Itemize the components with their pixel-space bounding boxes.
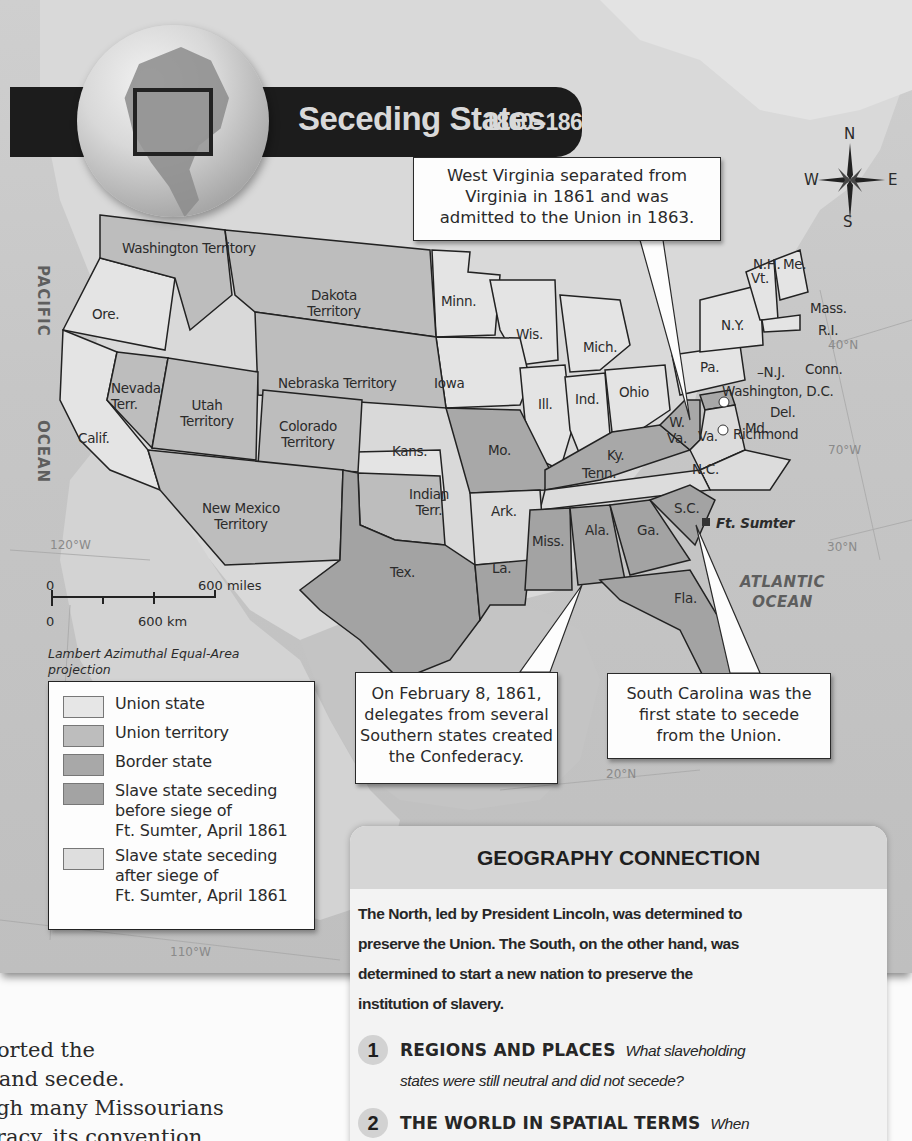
label-virginia: Va. (698, 428, 718, 444)
question-number-badge: 2 (358, 1108, 388, 1138)
label-new-mexico-territory: New Mexico Territory (196, 500, 286, 532)
compass-n: N (844, 125, 855, 143)
label-california: Calif. (78, 430, 109, 446)
label-pennsylvania: Pa. (700, 359, 719, 375)
question-heading: REGIONS AND PLACES (400, 1040, 616, 1060)
legend-item-seceding-before: Slave state seceding before siege of Ft.… (63, 781, 314, 841)
label-oregon: Ore. (92, 306, 119, 322)
callout-west-virginia: West Virginia separated from Virginia in… (413, 157, 721, 241)
question-2: 2 THE WORLD IN SPATIAL TERMS When (358, 1108, 879, 1139)
label-new-jersey: –N.J. (757, 364, 785, 380)
callout-south-carolina: South Carolina was the first state to se… (607, 673, 831, 759)
label-indian-territory: Indian Terr. (404, 486, 454, 518)
label-texas: Tex. (390, 564, 415, 580)
label-north-carolina: N.C. (692, 461, 719, 477)
label-mississippi: Miss. (532, 533, 564, 549)
label-maine: Me. (783, 256, 806, 272)
legend-item-border-state: Border state (63, 752, 314, 776)
ocean-label-atlantic: ATLANTIC OCEAN (740, 572, 825, 612)
callout-confederacy: On February 8, 1861, delegates from seve… (355, 672, 558, 784)
legend-swatch (63, 696, 104, 718)
legend-swatch (63, 783, 104, 805)
legend-swatch (63, 725, 104, 747)
legend-swatch (63, 848, 104, 870)
label-colorado-territory: Colorado Territory (268, 418, 348, 450)
label-georgia: Ga. (637, 522, 659, 538)
label-richmond: Richmond (733, 426, 798, 442)
label-missouri: Mo. (488, 442, 511, 458)
legend-item-union-state: Union state (63, 694, 314, 718)
label-illinois: Ill. (538, 396, 553, 412)
grid-label-40n: 40°N (828, 338, 858, 352)
label-massachusetts: Mass. (810, 300, 847, 316)
globe-locator-box (133, 88, 213, 156)
compass-w: W (804, 171, 819, 189)
question-heading: THE WORLD IN SPATIAL TERMS (400, 1113, 700, 1133)
map-legend: Union state Union territory Border state… (48, 681, 315, 930)
label-connecticut: Conn. (805, 361, 843, 377)
ocean-label-pacific: PACIFIC (34, 265, 52, 337)
label-florida: Fla. (674, 590, 697, 606)
geography-connection-panel: GEOGRAPHY CONNECTION The North, led by P… (350, 826, 887, 1141)
label-south-carolina: S.C. (674, 500, 699, 516)
label-washington-territory: Washington Territory (122, 240, 256, 256)
label-ohio: Ohio (619, 384, 649, 400)
legend-item-union-territory: Union territory (63, 723, 314, 747)
label-iowa: Iowa (434, 375, 464, 391)
label-ft-sumter: Ft. Sumter (716, 515, 794, 531)
scale-line (51, 596, 215, 598)
label-louisiana: La. (492, 560, 511, 576)
compass-s: S (843, 213, 853, 231)
label-kentucky: Ky. (607, 447, 624, 463)
grid-label-20n: 20°N (606, 767, 636, 781)
compass-rose-icon: N S W E (810, 125, 910, 235)
label-nebraska-territory: Nebraska Territory (278, 375, 397, 391)
label-arkansas: Ark. (491, 503, 517, 519)
geography-connection-title: GEOGRAPHY CONNECTION (477, 846, 760, 870)
label-west-virginia: W. Va. (663, 414, 691, 446)
grid-label-70w: 70°W (828, 443, 861, 457)
label-alabama: Ala. (585, 522, 609, 538)
compass-e: E (888, 171, 897, 189)
label-minnesota: Minn. (441, 293, 476, 309)
label-indiana: Ind. (575, 391, 599, 407)
projection-note: Lambert Azimuthal Equal-Area projection (48, 646, 240, 678)
label-utah-territory: Utah Territory (172, 397, 242, 429)
label-tennessee: Tenn. (582, 465, 616, 481)
geography-connection-header: GEOGRAPHY CONNECTION (350, 826, 887, 889)
question-number-badge: 1 (358, 1035, 388, 1065)
map-years: 1860–1861 (484, 109, 595, 136)
label-new-york: N.Y. (721, 317, 744, 333)
label-rhode-island: R.I. (818, 322, 838, 338)
grid-label-30n: 30°N (827, 540, 857, 554)
legend-swatch (63, 754, 104, 776)
label-washington-dc: Washington, D.C. (722, 383, 834, 399)
label-new-hampshire: N.H. (753, 256, 780, 272)
locator-globe (77, 25, 269, 217)
grid-label-110w: 110°W (170, 945, 211, 959)
label-delaware: Del. (770, 404, 796, 420)
ocean-label-pacific-2: OCEAN (34, 420, 52, 483)
label-dakota-territory: Dakota Territory (294, 287, 374, 319)
label-wisconsin: Wis. (516, 326, 543, 342)
legend-item-seceding-after: Slave state seceding after siege of Ft. … (63, 846, 314, 906)
grid-label-120w: 120°W (50, 538, 91, 552)
label-vermont: Vt. (751, 270, 769, 286)
geography-connection-paragraph: The North, led by President Lincoln, was… (358, 899, 879, 1019)
question-1: 1 REGIONS AND PLACES What slaveholding s… (358, 1035, 879, 1096)
label-michigan: Mich. (583, 339, 617, 355)
label-nevada-territory: Nevada Terr. (111, 380, 171, 412)
label-kansas: Kans. (392, 443, 427, 459)
body-text-fragment: pported the nt and secede. ough many Mis… (0, 1036, 340, 1141)
